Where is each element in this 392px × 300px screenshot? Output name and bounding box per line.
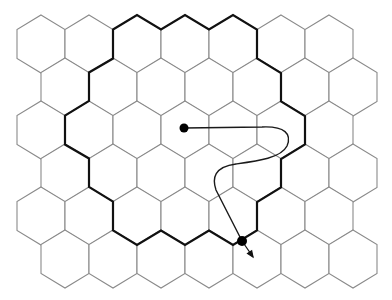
hex-grid-diagram xyxy=(0,0,392,300)
hex-grid-cells xyxy=(17,15,377,288)
start-point-dot xyxy=(180,124,189,133)
end-point-dot xyxy=(237,236,247,246)
